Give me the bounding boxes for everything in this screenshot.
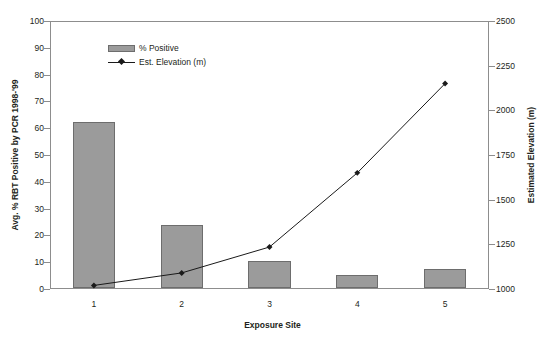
line-marker-diamond-icon [179, 270, 185, 276]
x-axis-tick-label: 1 [50, 299, 138, 313]
y-axis-left-tick-label: 50 [35, 151, 44, 160]
legend-item-line: Est. Elevation (m) [108, 55, 206, 69]
y-axis-right-tick-label: 2500 [496, 17, 515, 26]
y-axis-left-tick-label: 40 [35, 178, 44, 187]
x-axis-tick-label: 5 [401, 299, 489, 313]
y-axis-left-tick-label: 20 [35, 231, 44, 240]
axis-tick-mark [44, 155, 50, 156]
chart-figure: 1009080706050403020100 25002250200017501… [0, 0, 545, 342]
y-axis-right-tick-label: 2000 [496, 106, 515, 115]
axis-tick-mark [489, 289, 495, 290]
axis-tick-mark [44, 289, 50, 290]
chart-legend: % Positive Est. Elevation (m) [108, 41, 206, 69]
legend-line-marker-icon [108, 58, 135, 67]
y-axis-left-tick-label: 60 [35, 124, 44, 133]
axis-tick-mark [44, 21, 50, 22]
axis-tick-mark [489, 155, 495, 156]
y-axis-right-tick-label: 1250 [496, 240, 515, 249]
axis-tick-mark [44, 262, 50, 263]
y-axis-left-tick-label: 10 [35, 258, 44, 267]
axis-tick-mark [44, 182, 50, 183]
legend-label-line: Est. Elevation (m) [139, 57, 206, 67]
legend-label-bar: % Positive [139, 43, 179, 53]
legend-item-bar: % Positive [108, 41, 206, 55]
x-axis-category-labels: 12345 [50, 299, 489, 313]
y-axis-right-tick-label: 2250 [496, 61, 515, 70]
y-axis-left-tick-label: 100 [30, 17, 44, 26]
axis-tick-mark [44, 235, 50, 236]
legend-bar-swatch-icon [108, 45, 135, 52]
axis-tick-mark [44, 209, 50, 210]
line-path [94, 84, 445, 286]
y-axis-left-tick-label: 30 [35, 204, 44, 213]
axis-tick-mark [44, 101, 50, 102]
x-axis-tick-label: 2 [138, 299, 226, 313]
line-marker-diamond-icon [91, 282, 97, 288]
axis-tick-mark [489, 200, 495, 201]
axis-tick-mark [489, 110, 495, 111]
x-axis-tick-label: 4 [313, 299, 401, 313]
axis-tick-mark [489, 21, 495, 22]
y-axis-left-tick-label: 80 [35, 70, 44, 79]
x-axis-title: Exposure Site [0, 320, 545, 330]
y-axis-right-tick-label: 1000 [496, 285, 515, 294]
y-axis-right-title: Estimated Elevation (m) [526, 107, 536, 203]
axis-tick-mark [44, 128, 50, 129]
y-axis-left-title: Avg. % RBT Positive by PCR 1998-'99 [10, 80, 20, 231]
x-axis-tick-label: 3 [226, 299, 314, 313]
axis-tick-mark [44, 75, 50, 76]
axis-tick-mark [489, 244, 495, 245]
y-axis-right-tick-label: 1750 [496, 151, 515, 160]
y-axis-right-tick-label: 1500 [496, 195, 515, 204]
y-axis-left-tick-label: 70 [35, 97, 44, 106]
axis-tick-mark [489, 66, 495, 67]
axis-tick-mark [44, 48, 50, 49]
y-axis-left-tick-label: 90 [35, 44, 44, 53]
